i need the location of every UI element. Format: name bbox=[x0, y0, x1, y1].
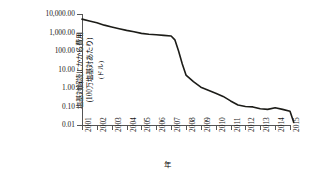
series-line-group bbox=[0, 0, 334, 175]
sequencing-cost-chart: 塩基対解読にかかる費用 (100万塩基対あたり) (ドル) 10,000.001… bbox=[0, 0, 334, 175]
series-line-sequencing-cost bbox=[82, 19, 294, 122]
x-axis-title: 年 bbox=[0, 161, 334, 168]
